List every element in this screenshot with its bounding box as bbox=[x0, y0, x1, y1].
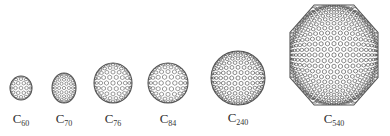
label-c70: C70 bbox=[56, 112, 73, 130]
label-c60: C60 bbox=[13, 112, 30, 130]
molecule-c70 bbox=[52, 73, 76, 103]
fullerene-cage-icon bbox=[10, 76, 32, 100]
molecule-c76 bbox=[94, 63, 132, 103]
fullerene-cage-icon bbox=[290, 5, 378, 105]
fullerene-cage-icon bbox=[211, 51, 265, 105]
molecule-c84 bbox=[148, 63, 188, 103]
label-c240: C240 bbox=[228, 111, 249, 129]
label-c84: C84 bbox=[160, 112, 177, 130]
label-c76: C76 bbox=[105, 112, 122, 130]
fullerene-cage-icon bbox=[148, 63, 188, 103]
fullerene-cage-icon bbox=[52, 73, 76, 103]
molecule-c540 bbox=[290, 5, 378, 105]
label-c540: C540 bbox=[324, 112, 345, 130]
molecule-c60 bbox=[10, 76, 32, 100]
fullerene-cage-icon bbox=[94, 63, 132, 103]
molecule-c240 bbox=[211, 51, 265, 105]
